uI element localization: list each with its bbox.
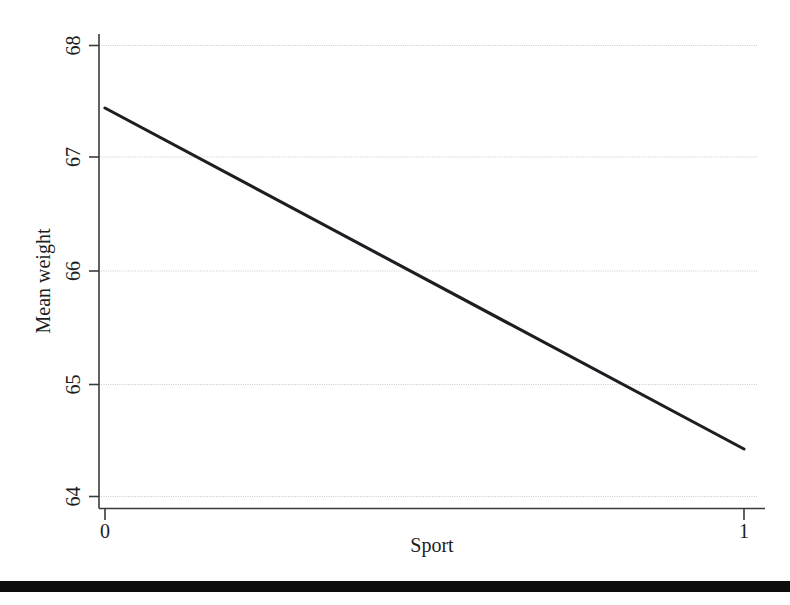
y-tick-label-68: 68: [62, 36, 84, 56]
y-tick-label-66: 66: [62, 261, 84, 281]
y-tick-label-67: 67: [62, 147, 84, 167]
x-axis-ticks: [105, 509, 744, 521]
page-bottom-rule: [0, 581, 790, 592]
chart-figure: 68 67 66 65 64 0 1 Mean weight Sport: [0, 0, 790, 605]
y-tick-label-65: 65: [62, 375, 84, 395]
x-tick-label-1: 1: [739, 520, 749, 542]
x-axis-title: Sport: [410, 534, 454, 557]
y-axis-tick-labels: 68 67 66 65 64: [62, 36, 84, 507]
line-chart-canvas: 68 67 66 65 64 0 1 Mean weight Sport: [0, 0, 790, 605]
y-axis-title: Mean weight: [32, 228, 55, 333]
series-mean-weight: [105, 108, 744, 449]
y-axis-ticks: [89, 46, 99, 497]
x-tick-label-0: 0: [100, 520, 110, 542]
gridlines: [99, 46, 758, 497]
series-line-mean-weight: [105, 108, 744, 449]
y-tick-label-64: 64: [62, 487, 84, 507]
